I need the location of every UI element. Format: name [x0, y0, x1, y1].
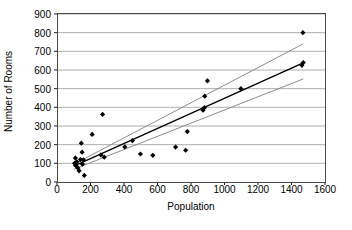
plot-area	[57, 14, 325, 182]
x-tick-label: 1600	[314, 184, 336, 195]
y-axis-tick-labels: 9008007006005004003002001000	[18, 0, 54, 196]
x-axis-tick-labels: 02004006008001000120014001600	[0, 184, 352, 200]
y-axis-ticks	[54, 14, 57, 182]
data-point-marker	[183, 148, 188, 153]
x-tick-label: 800	[183, 184, 200, 195]
y-tick-label: 400	[34, 102, 51, 113]
y-tick-label: 300	[34, 121, 51, 132]
x-axis-title: Population	[57, 201, 325, 212]
trend-lines	[74, 44, 303, 169]
y-tick-label: 600	[34, 65, 51, 76]
y-tick-label: 500	[34, 83, 51, 94]
x-tick-label: 0	[54, 184, 60, 195]
y-tick-label: 200	[34, 139, 51, 150]
y-tick-label: 900	[34, 9, 51, 20]
y-tick-label: 800	[34, 27, 51, 38]
data-point-marker	[80, 150, 85, 155]
x-tick-label: 1400	[280, 184, 302, 195]
data-point-marker	[300, 30, 305, 35]
data-point-marker	[82, 173, 87, 178]
x-tick-label: 200	[82, 184, 99, 195]
data-point-marker	[100, 112, 105, 117]
y-axis-title-text: Number of Rooms	[4, 50, 15, 131]
y-axis-title: Number of Rooms	[0, 0, 18, 182]
x-tick-label: 400	[116, 184, 133, 195]
data-point-marker	[173, 144, 178, 149]
regression-fit	[74, 63, 303, 166]
lower-confidence-band	[74, 79, 303, 169]
data-point-marker	[150, 153, 155, 158]
x-tick-label: 1000	[213, 184, 235, 195]
y-tick-label: 100	[34, 158, 51, 169]
upper-confidence-band	[74, 44, 303, 164]
scatter-chart: Number of Rooms 900800700600500400300200…	[0, 0, 352, 230]
data-point-marker	[185, 129, 190, 134]
x-tick-label: 1200	[247, 184, 269, 195]
gridlines	[57, 14, 325, 163]
x-tick-label: 600	[149, 184, 166, 195]
data-point-marker	[90, 132, 95, 137]
data-point-marker	[205, 78, 210, 83]
data-point-marker	[138, 151, 143, 156]
y-tick-label: 700	[34, 46, 51, 57]
